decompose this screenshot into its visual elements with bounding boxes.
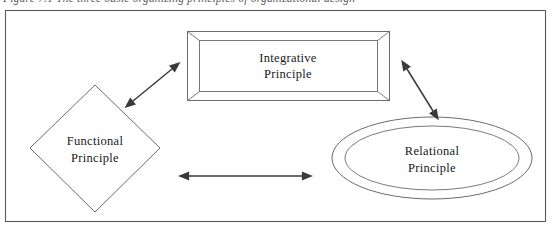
functional-label-line2: Principle (71, 151, 119, 165)
functional-label-line1: Functional (67, 134, 124, 148)
functional-diamond (30, 85, 160, 212)
shape-integrative-principle: Integrative Principle (188, 32, 390, 101)
figure-page: Figure 7.1 The three basic organizing pr… (0, 0, 555, 231)
relational-label-line1: Relational (405, 144, 460, 158)
relational-label-line2: Principle (408, 161, 456, 175)
integrative-label-line1: Integrative (259, 51, 317, 65)
relational-inner-ellipse (345, 126, 519, 190)
connector-functional-integrative (133, 69, 172, 101)
integrative-label-line2: Principle (264, 67, 312, 81)
figure-diagram: Integrative Principle Functional Princip… (0, 0, 555, 231)
shape-functional-principle: Functional Principle (30, 85, 160, 212)
shape-relational-principle: Relational Principle (332, 117, 532, 199)
integrative-inner-rect (200, 41, 378, 92)
connector-integrative-relational (407, 69, 433, 111)
